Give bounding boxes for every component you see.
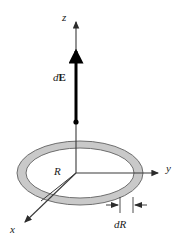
diagram-canvas [0,0,185,251]
radius-label: R [54,166,61,177]
axis-field-point [73,119,78,124]
x-axis-label: x [10,224,15,235]
ring-electric-field-diagram: z dE R y x dR [0,0,185,251]
dE-vector-label: dE [53,72,66,83]
y-axis-label: y [166,163,171,174]
field-vector-dE [73,51,78,125]
dR-label-R: R [120,218,127,230]
z-axis-label: z [62,12,66,23]
dR-width-label: dR [114,219,126,230]
dE-label-E: E [59,71,66,83]
